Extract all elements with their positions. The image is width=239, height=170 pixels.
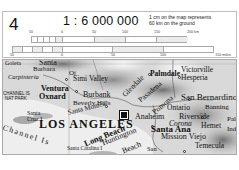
map-label: San Bernardino <box>181 93 237 102</box>
km-tick-label: 0 <box>61 31 63 35</box>
map-label: Carpinteria <box>8 74 39 81</box>
km-tick-label: 100 <box>122 31 128 35</box>
map-label: Hesperia <box>181 74 208 82</box>
scale-note-line2: 60 km on the ground <box>149 21 239 27</box>
city-marker[interactable] <box>75 90 78 93</box>
km-tick-label: 200 km <box>187 31 199 35</box>
map-label: Temecula <box>195 142 224 150</box>
scale-legend-panel: 4 1 : 6 000 000 1 cm on the map represen… <box>2 11 237 58</box>
mile-tick-label: 150 miles <box>215 54 230 58</box>
relief-map[interactable]: Goleta Santa Barbara Oj Carpinteria Vent… <box>2 59 237 155</box>
map-label: San <box>147 146 157 153</box>
map-label: Goleta <box>5 60 21 66</box>
map-label: Indio <box>227 126 237 133</box>
map-label: Mission Viejo <box>161 133 206 141</box>
map-label: Palm <box>227 116 237 123</box>
mile-tick-label: 50 <box>10 54 14 58</box>
scale-note: 1 cm on the map represents 60 km on the … <box>149 15 239 26</box>
map-label: Barbara <box>33 66 55 73</box>
scale-ratio: 1 : 6 000 000 <box>63 15 139 28</box>
map-label: NAT PARK <box>5 97 27 102</box>
km-tick-label: 50 <box>92 31 96 35</box>
map-label: Santa Catalina I <box>67 146 102 152</box>
map-label: Oxnard <box>39 93 66 101</box>
map-label: Hemet <box>201 122 221 130</box>
mile-tick-label: 0 <box>61 54 63 58</box>
km-tick-label: 50 <box>29 31 33 35</box>
km-tick-label: 150 <box>154 31 160 35</box>
km-scale-bar <box>31 36 187 43</box>
map-label: Palmdale <box>150 70 180 78</box>
mile-scale-bar <box>12 46 214 53</box>
page-number: 4 <box>9 16 18 33</box>
map-label: Simi Valley <box>73 75 108 83</box>
mile-tick-label: 50 <box>111 54 115 58</box>
map-label: Anaheim <box>135 113 164 121</box>
map-label: Banning <box>205 104 229 111</box>
map-label: Ontario <box>167 104 190 112</box>
city-marker[interactable] <box>183 150 186 153</box>
map-label: Burbank <box>83 91 111 99</box>
mile-tick-label: 100 <box>160 54 166 58</box>
city-marker[interactable] <box>65 78 68 81</box>
